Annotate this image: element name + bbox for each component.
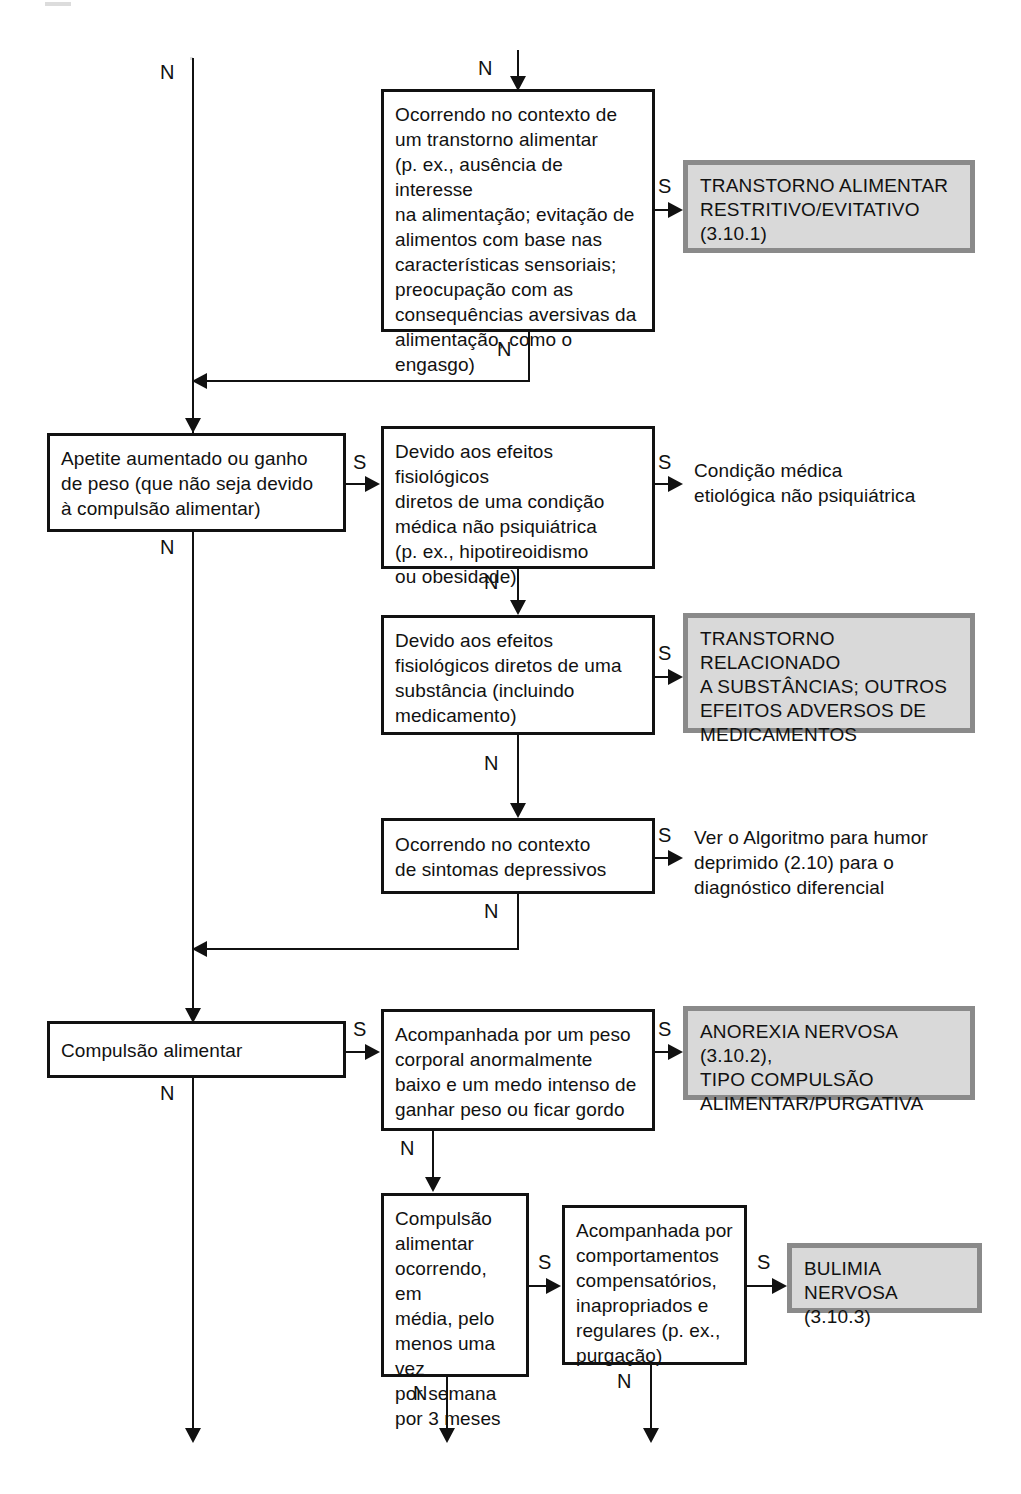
scan-artifact — [45, 2, 71, 6]
flowchart-canvas: N N Ocorrendo no contexto de um transtor… — [0, 0, 1021, 1494]
branch-label-n-substance: N — [484, 753, 499, 773]
edge-frequency-n-down — [446, 1377, 448, 1433]
edge-frequency-s-arrow — [546, 1278, 561, 1294]
outcome-arfid[interactable]: TRANSTORNO ALIMENTAR RESTRITIVO/EVITATIV… — [683, 160, 975, 253]
question-compensatory-behaviours[interactable]: Acompanhada por comportamentos compensat… — [562, 1205, 747, 1365]
branch-label-n-top-left: N — [160, 62, 175, 82]
edge-lowweight-n-arrow — [425, 1177, 441, 1192]
branch-label-n-medical: N — [484, 572, 499, 592]
branch-label-s-substance: S — [658, 643, 672, 663]
outcome-medical-condition: Condição médica etiológica não psiquiátr… — [694, 458, 984, 508]
spine-left-arrow-bottom — [185, 1428, 201, 1443]
branch-label-s-medical: S — [353, 452, 367, 472]
edge-depressive-n-left — [192, 948, 519, 950]
arrow-into-increased-appetite — [185, 418, 201, 433]
outcome-see-mood-algorithm: Ver o Algoritmo para humor deprimido (2.… — [694, 825, 994, 900]
edge-substance-n-arrow — [510, 803, 526, 818]
spine-left-line — [192, 58, 194, 1431]
question-medical-condition[interactable]: Devido aos efeitos fisiológicos diretos … — [381, 426, 655, 569]
edge-frequency-n-arrow — [439, 1428, 455, 1443]
edge-medical-s-arrow — [668, 476, 683, 492]
outcome-anorexia-nervosa[interactable]: ANOREXIA NERVOSA (3.10.2), TIPO COMPULSÃ… — [683, 1006, 975, 1100]
branch-label-n-top-entry: N — [478, 58, 493, 78]
branch-label-s-medical-out: S — [658, 452, 672, 472]
edge-substance-n-down — [517, 735, 519, 810]
branch-label-n-appetite: N — [160, 537, 175, 557]
edge-substance-s-arrow — [668, 669, 683, 685]
branch-label-n-depressive: N — [484, 901, 499, 921]
question-binge-frequency[interactable]: Compulsão alimentar ocorrendo, em média,… — [381, 1193, 529, 1377]
question-increased-appetite[interactable]: Apetite aumentado ou ganho de peso (que … — [47, 433, 346, 532]
question-binge-eating[interactable]: Compulsão alimentar — [47, 1021, 346, 1078]
branch-label-n-lowweight: N — [400, 1138, 415, 1158]
branch-label-n-binge: N — [160, 1083, 175, 1103]
edge-depressive-s-arrow — [668, 850, 683, 866]
edge-compensatory-n-arrow — [643, 1428, 659, 1443]
edge-depressive-n-down — [517, 894, 519, 950]
branch-label-s-binge: S — [353, 1019, 367, 1039]
question-depressive-symptoms[interactable]: Ocorrendo no contexto de sintomas depres… — [381, 818, 655, 894]
question-low-weight-fear[interactable]: Acompanhada por um peso corporal anormal… — [381, 1009, 655, 1131]
branch-label-s-compensatory: S — [757, 1252, 771, 1272]
edge-arfid-n-down — [528, 332, 530, 382]
edge-arfid-arrow — [668, 202, 683, 218]
outcome-bulimia-nervosa[interactable]: BULIMIA NERVOSA (3.10.3) — [787, 1243, 982, 1313]
branch-label-s-anorexia: S — [658, 1019, 672, 1039]
question-eating-disorder-context[interactable]: Ocorrendo no contexto de um transtorno a… — [381, 89, 655, 332]
edge-compensatory-n-down — [650, 1365, 652, 1433]
edge-arfid-n-left — [192, 380, 530, 382]
branch-label-s-arfid: S — [658, 176, 672, 196]
edge-arfid-n-arrow — [192, 373, 207, 389]
branch-label-s-frequency: S — [538, 1252, 552, 1272]
outcome-substance-related[interactable]: TRANSTORNO RELACIONADO A SUBSTÂNCIAS; OU… — [683, 613, 975, 733]
question-substance[interactable]: Devido aos efeitos fisiológicos diretos … — [381, 615, 655, 735]
edge-appetite-s-arrow — [365, 476, 380, 492]
edge-binge-s-arrow — [365, 1044, 380, 1060]
edge-compensatory-s-arrow — [772, 1278, 787, 1294]
branch-label-n-frequency: N — [413, 1383, 428, 1403]
edge-medical-n-arrow — [510, 600, 526, 615]
branch-label-n-arfid: N — [497, 339, 512, 359]
edge-depressive-n-arrow — [192, 941, 207, 957]
branch-label-n-compensatory: N — [617, 1371, 632, 1391]
branch-label-s-depressive: S — [658, 825, 672, 845]
edge-lowweight-s-arrow — [668, 1044, 683, 1060]
